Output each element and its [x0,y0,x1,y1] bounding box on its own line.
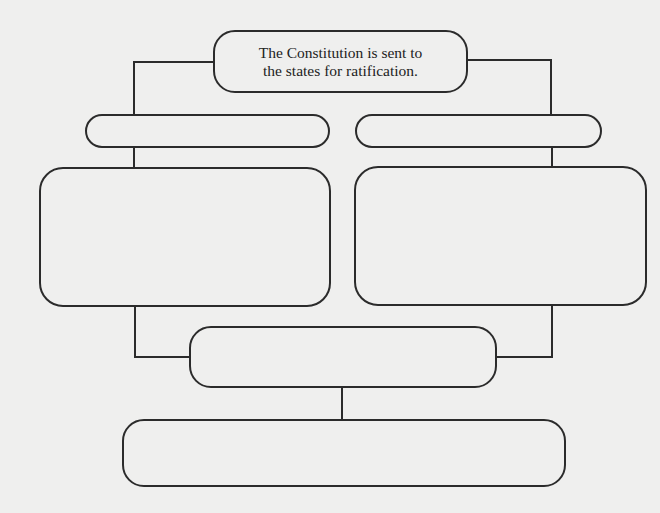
connector-title-to-right-pill [467,60,551,115]
title-line-1: The Constitution is sent to [259,44,423,62]
right-pill-box[interactable] [355,114,602,148]
merge-box[interactable] [189,326,497,388]
connector-left-box-to-mid [135,306,190,357]
result-box[interactable] [122,419,566,487]
title-text: The Constitution is sent to the states f… [249,44,433,80]
connector-title-to-left-pill [134,62,213,115]
connector-right-box-to-mid [496,305,552,357]
title-box: The Constitution is sent to the states f… [213,30,468,93]
title-line-2: the states for ratification. [259,62,423,80]
left-pill-box[interactable] [85,114,330,148]
flowchart-canvas: The Constitution is sent to the states f… [0,0,660,513]
left-detail-box[interactable] [39,167,331,307]
right-detail-box[interactable] [354,166,647,306]
